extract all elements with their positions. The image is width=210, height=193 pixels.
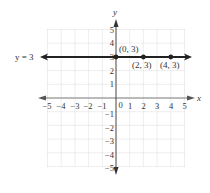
x-tick: 4 [169,101,174,111]
y-tick: 5 [110,25,114,35]
point-label-0-3: (0, 3) [119,44,139,54]
point-4-3 [168,55,173,60]
x-tick: −2 [83,101,92,111]
y-axis [114,19,119,175]
x-axis-right-arrow-icon [187,96,195,101]
y-axis-label: y [112,7,117,17]
point-label-4-3: (4, 3) [160,60,180,70]
x-tick: 3 [155,101,159,111]
x-axis-label: x [196,93,201,103]
y-tick: −3 [105,136,114,146]
y-tick: −1 [105,109,114,119]
x-tick: −4 [56,101,66,111]
line-equation-label: y = 3 [15,52,34,62]
x-axis-left-arrow-icon [38,96,46,101]
y-tick-labels: 5 4 3 2 1 −1 −2 −3 −4 −5 [105,25,115,174]
x-tick: 5 [182,101,186,111]
y-tick: −5 [105,163,114,173]
x-tick: 2 [141,101,145,111]
y-tick: −2 [105,123,114,133]
y-axis-up-arrow-icon [114,19,119,27]
x-tick: −3 [70,101,79,111]
point-2-3 [141,55,146,60]
y-axis-down-arrow-icon [114,167,119,175]
y-tick: 2 [110,66,114,76]
origin-label: 0 [118,100,122,110]
y-tick: 1 [110,79,114,89]
point-0-3 [114,55,119,60]
x-tick-labels: −5 −4 −3 −2 −1 0 1 2 3 4 5 [42,100,186,111]
y-tick: −4 [105,150,115,160]
x-tick: −5 [42,101,51,111]
coordinate-plane: x y −5 −4 −3 −2 −1 0 1 2 3 4 5 5 4 3 2 1… [0,0,210,193]
x-tick: 1 [128,101,132,111]
point-label-2-3: (2, 3) [132,60,152,70]
